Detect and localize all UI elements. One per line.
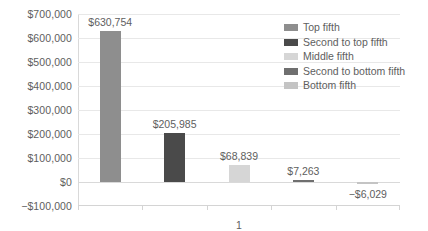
x-axis-tick <box>78 206 79 210</box>
y-axis-tick-label: $500,000 <box>27 56 72 68</box>
legend-swatch-icon <box>284 39 298 46</box>
legend-item-label: Bottom fifth <box>303 80 356 91</box>
legend-item[interactable]: Second to top fifth <box>284 37 405 48</box>
y-axis-tick-label: −$100,000 <box>21 200 72 212</box>
y-axis-tick-label: $100,000 <box>27 152 72 164</box>
bar-value-label: $7,263 <box>287 165 319 177</box>
legend-swatch-icon <box>284 53 298 60</box>
x-axis-tick <box>207 206 208 210</box>
bar-value-label: $205,985 <box>153 118 197 130</box>
bar <box>164 133 185 182</box>
legend-item-label: Second to top fifth <box>303 37 388 48</box>
y-axis-tick-label: $600,000 <box>27 32 72 44</box>
grid-line <box>78 110 400 111</box>
legend-item[interactable]: Top fifth <box>284 22 405 33</box>
bar <box>293 180 314 182</box>
legend-item-label: Second to bottom fifth <box>303 66 405 77</box>
bar <box>357 182 378 184</box>
legend-item[interactable]: Bottom fifth <box>284 80 405 91</box>
bar <box>100 31 121 182</box>
bar-chart: $700,000$600,000$500,000$400,000$300,000… <box>0 0 428 231</box>
y-axis-tick-label: $400,000 <box>27 80 72 92</box>
x-axis-tick <box>399 206 400 210</box>
x-axis-tick <box>142 206 143 210</box>
chart-legend: Top fifthSecond to top fifthMiddle fifth… <box>284 22 405 91</box>
x-axis-tick <box>271 206 272 210</box>
x-axis-tick <box>336 206 337 210</box>
y-axis-tick-label: $0 <box>60 176 72 188</box>
legend-item-label: Middle fifth <box>303 51 354 62</box>
legend-swatch-icon <box>284 68 298 75</box>
legend-item-label: Top fifth <box>303 22 340 33</box>
bar-value-label: $68,839 <box>220 150 258 162</box>
y-axis-tick-label: $700,000 <box>27 8 72 20</box>
legend-item[interactable]: Second to bottom fifth <box>284 66 405 77</box>
bar-value-label: $630,754 <box>88 16 132 28</box>
grid-line <box>78 134 400 135</box>
y-axis-tick-label: $200,000 <box>27 128 72 140</box>
legend-swatch-icon <box>284 24 298 31</box>
legend-item[interactable]: Middle fifth <box>284 51 405 62</box>
zero-baseline <box>78 182 400 183</box>
bar <box>229 165 250 182</box>
grid-line <box>78 206 400 207</box>
legend-swatch-icon <box>284 82 298 89</box>
y-axis-tick-label: $300,000 <box>27 104 72 116</box>
bar-value-label: −$6,029 <box>349 188 387 200</box>
x-axis-category-label: 1 <box>236 219 242 231</box>
